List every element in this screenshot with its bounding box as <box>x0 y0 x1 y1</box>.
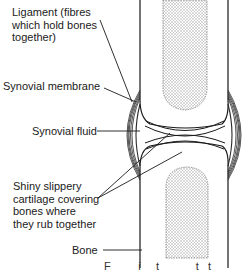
label-cartilage-line1: Shiny slippery <box>13 180 99 193</box>
upper-marrow <box>163 0 207 110</box>
label-ligament: Ligament (fibres which hold bones togeth… <box>12 6 97 44</box>
leader-ligament <box>100 20 132 102</box>
label-bone: Bone <box>72 244 98 257</box>
label-synovial-fluid: Synovial fluid <box>32 125 97 138</box>
label-cartilage-line3: bones where <box>13 205 99 218</box>
label-ligament-line1: Ligament (fibres <box>12 6 97 19</box>
upper-bone <box>140 0 228 128</box>
label-ligament-line3: together) <box>12 31 97 44</box>
ligament-right <box>228 90 241 180</box>
caption-fragment: F i t t t <box>104 260 211 273</box>
label-ligament-line2: which hold bones <box>12 19 97 32</box>
label-cartilage-line2: cartilage covering <box>13 193 99 206</box>
label-synovial-membrane: Synovial membrane <box>3 80 100 93</box>
lower-marrow <box>166 167 208 258</box>
lower-bone <box>140 142 228 268</box>
label-cartilage-line4: they rub together <box>13 218 99 231</box>
leader-synovial-membrane <box>104 88 136 102</box>
label-cartilage: Shiny slippery cartilage covering bones … <box>13 180 99 230</box>
